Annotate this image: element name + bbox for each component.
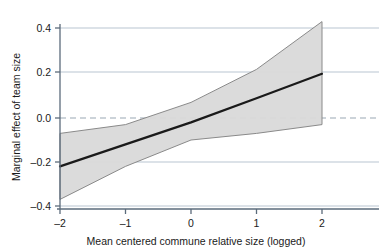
x-tick-label-0: 0 [188, 217, 194, 229]
y-tick-label-0.0: 0.0 [36, 112, 51, 124]
y-axis-title: Marginal effect of team size [10, 53, 22, 181]
x-tick-labels: –2 –1 0 1 2 [54, 217, 325, 229]
y-tick-label-0.4: 0.4 [36, 22, 51, 34]
y-tick-label-neg0.2: –0.2 [31, 156, 52, 168]
y-tick-labels: 0.4 0.2 0.0 –0.2 –0.4 [31, 22, 52, 212]
x-tick-label-2: 2 [319, 217, 325, 229]
y-ticks [55, 28, 60, 206]
marginal-effects-plot: 0.4 0.2 0.0 –0.2 –0.4 –2 –1 0 1 2 Mean c… [0, 0, 379, 252]
chart-canvas: 0.4 0.2 0.0 –0.2 –0.4 –2 –1 0 1 2 Mean c… [0, 0, 379, 252]
x-ticks [60, 209, 322, 214]
x-axis-title: Mean centered commune relative size (log… [87, 235, 306, 247]
x-tick-label-1: 1 [254, 217, 260, 229]
x-tick-label-neg1: –1 [120, 217, 132, 229]
confidence-band [60, 22, 322, 200]
x-tick-label-neg2: –2 [54, 217, 66, 229]
y-tick-label-neg0.4: –0.4 [31, 200, 52, 212]
y-tick-label-0.2: 0.2 [36, 66, 51, 78]
